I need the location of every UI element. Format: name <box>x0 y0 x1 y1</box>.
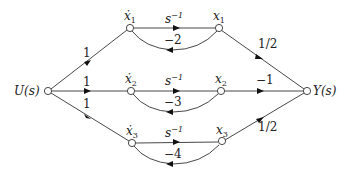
label-xdot1: ẋ1 <box>124 9 136 25</box>
arrow-x2-y <box>257 88 264 94</box>
gain-u-xdot1: 1 <box>83 46 91 60</box>
arrow-integrator-1 <box>173 25 180 31</box>
label-xdot3: ẋ3 <box>126 124 138 140</box>
node-xdot3 <box>128 139 135 146</box>
input-label: U(s) <box>14 84 40 98</box>
node-xdot1 <box>126 24 133 31</box>
arrow-feedback-3 <box>166 161 173 167</box>
label-output-gain-3: 1/2 <box>258 120 277 134</box>
label-output-gain-2: −1 <box>256 73 274 87</box>
node-output-y <box>303 87 310 94</box>
diagram-svg: U(s) Y(s) 1 1 1 ẋ1 x1 s−1 −2 1/2 ẋ2 x2 s… <box>0 0 345 173</box>
label-integrator-3: s−1 <box>165 125 183 140</box>
node-xdot2 <box>127 87 134 94</box>
label-integrator-1: s−1 <box>165 11 183 26</box>
arrow-integrator-3 <box>173 139 180 145</box>
label-xdot2: ẋ2 <box>125 72 137 88</box>
gain-u-xdot2: 1 <box>83 75 91 89</box>
gain-u-xdot3: 1 <box>83 97 91 111</box>
arrow-x1-y <box>255 54 263 59</box>
node-x2 <box>217 87 224 94</box>
label-feedback-3: −4 <box>164 147 182 161</box>
label-x1: x1 <box>213 9 225 25</box>
arrow-integrator-2 <box>173 88 180 94</box>
label-output-gain-1: 1/2 <box>258 37 277 51</box>
label-x2: x2 <box>215 72 227 88</box>
label-feedback-1: −2 <box>164 33 182 47</box>
label-integrator-2: s−1 <box>165 73 183 88</box>
arrow-feedback-2 <box>166 109 173 115</box>
node-input-u <box>44 87 51 94</box>
output-label: Y(s) <box>313 84 337 98</box>
signal-flow-graph: U(s) Y(s) 1 1 1 ẋ1 x1 s−1 −2 1/2 ẋ2 x2 s… <box>0 0 345 173</box>
node-x1 <box>215 24 222 31</box>
label-feedback-2: −3 <box>164 95 182 109</box>
label-x3: x3 <box>216 123 228 139</box>
arrow-feedback-1 <box>166 47 173 53</box>
